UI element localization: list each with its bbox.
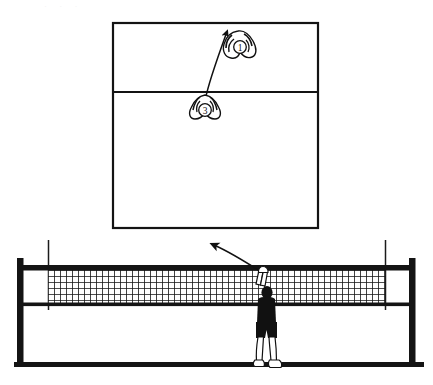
overhead-court-view: 3 1 [113, 23, 318, 228]
post-right [409, 258, 416, 365]
court-player-3-number: 3 [203, 106, 208, 116]
player-jersey [257, 297, 276, 323]
net-bottom-band [20, 303, 413, 307]
ground-line [14, 362, 424, 367]
diagram-canvas: 3 1 [0, 0, 433, 385]
volleyball-diagram-figure: · · · [0, 0, 433, 385]
scan-artifact-text: · · · [44, 1, 244, 13]
player-hands [258, 267, 268, 273]
net-mesh [48, 270, 385, 304]
net-elevation-view [14, 240, 424, 368]
post-left [17, 258, 24, 365]
player-leg-front [269, 337, 277, 361]
player-shoe-back [253, 360, 264, 367]
player-leg-back [256, 337, 263, 361]
net-top-band [20, 265, 413, 271]
player-shoe-front [268, 360, 281, 368]
court-outline [113, 23, 318, 228]
court-player-1-number: 1 [238, 43, 243, 53]
player-shorts [256, 322, 277, 338]
